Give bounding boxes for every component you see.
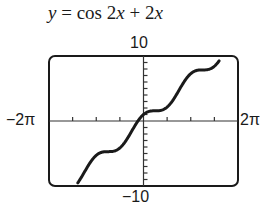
plot-area: [0, 0, 269, 210]
axes: [49, 56, 238, 186]
function-curve: [78, 61, 219, 183]
